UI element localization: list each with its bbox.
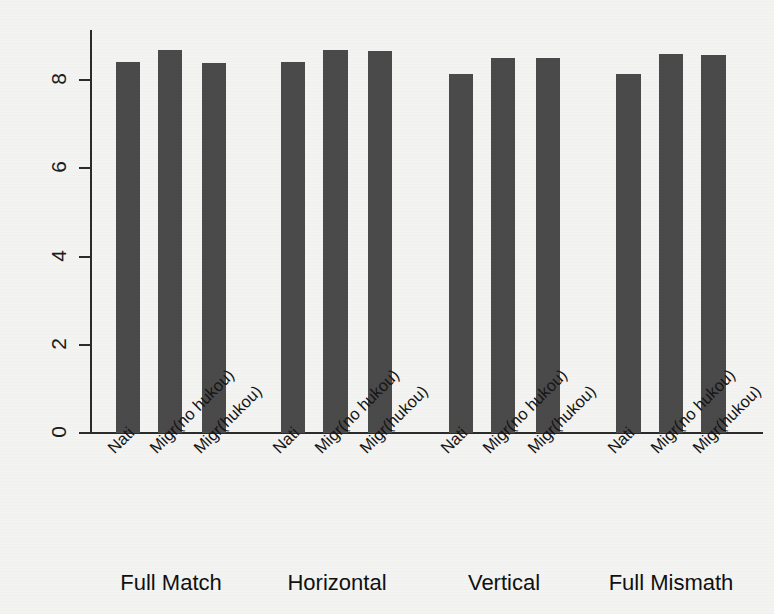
bar (449, 74, 473, 433)
y-tick-label-2: 2 (47, 329, 71, 359)
bar (116, 62, 140, 433)
y-tick-mark-4 (79, 256, 90, 258)
bar (323, 50, 348, 433)
bar (659, 54, 683, 433)
x-group-label-vertical: Vertical (468, 570, 540, 596)
y-tick-mark-0 (79, 432, 90, 434)
y-tick-mark-2 (79, 344, 90, 346)
bar (616, 74, 641, 433)
y-tick-mark-6 (79, 167, 90, 169)
y-tick-mark-8 (79, 79, 90, 81)
y-tick-label-0: 0 (47, 417, 71, 447)
bar-chart: 0 2 4 6 8 Nati Migr(no hukou) Migr(hukou… (0, 0, 774, 614)
y-tick-label-4: 4 (47, 241, 71, 271)
x-group-label-full-mismath: Full Mismath (609, 570, 734, 596)
plot-area (91, 30, 763, 433)
bar (158, 50, 182, 433)
x-group-label-horizontal: Horizontal (287, 570, 386, 596)
bar (491, 58, 515, 433)
y-tick-label-8: 8 (47, 64, 71, 94)
x-group-label-full-match: Full Match (120, 570, 221, 596)
y-tick-label-6: 6 (47, 152, 71, 182)
bar (281, 62, 305, 433)
